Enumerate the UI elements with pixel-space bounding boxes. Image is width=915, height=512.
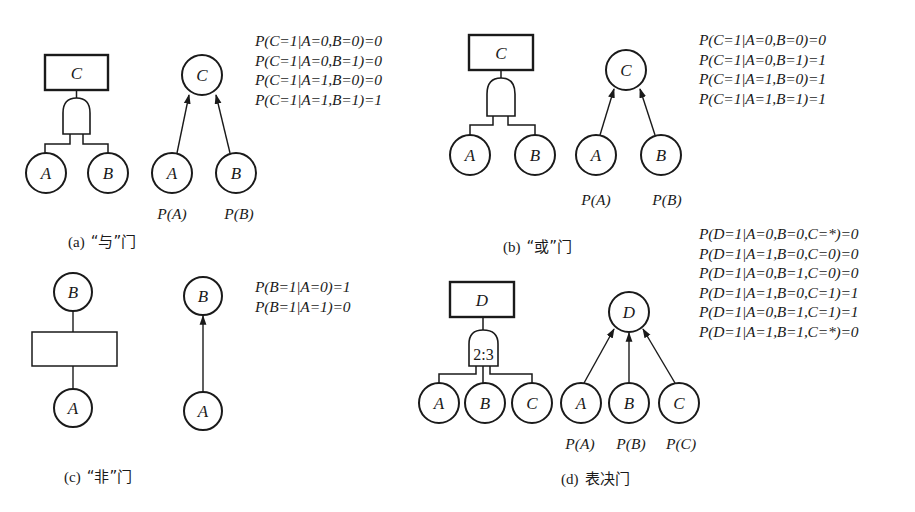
caption-label: “非”门 (87, 468, 133, 486)
node-label: B (530, 146, 541, 165)
equation: P(C=1|A=1,B=1)=1 (699, 89, 826, 109)
equation: P(D=1|A=1,B=1,C=*)=0 (699, 322, 858, 342)
equation: P(C=1|A=1,B=0)=1 (699, 69, 826, 89)
cpt-equations-b: P(C=1|A=0,B=0)=0 P(C=1|A=0,B=1)=1 P(C=1|… (699, 30, 826, 108)
caption-b: (b)“或”门 (503, 235, 572, 256)
caption-prefix: (a) (68, 234, 85, 250)
caption-label: “或”门 (527, 238, 573, 256)
node-label: A (40, 164, 52, 183)
caption-label: 表决门 (585, 470, 630, 488)
equation: P(B=1|A=1)=0 (255, 297, 350, 317)
arrow-icon (640, 89, 655, 135)
node-label: C (620, 61, 632, 80)
equation: P(B=1|A=0)=1 (255, 277, 350, 297)
caption-a: (a)“与”门 (68, 230, 136, 251)
arrow-icon (584, 329, 614, 383)
equation: P(D=1|A=0,B=1,C=1)=1 (699, 302, 858, 322)
equation: P(C=1|A=1,B=1)=1 (255, 90, 382, 110)
node-label: C (495, 44, 507, 63)
equation: P(C=1|A=0,B=0)=0 (255, 31, 382, 51)
arrow-icon (600, 89, 614, 135)
node-label: D (622, 303, 636, 322)
node-label: B (198, 287, 209, 306)
node-label: A (197, 402, 209, 421)
equation: P(C=1|A=1,B=0)=0 (255, 70, 382, 90)
node-label: B (624, 394, 635, 413)
equation: P(C=1|A=0,B=1)=1 (699, 50, 826, 70)
node-label: A (575, 394, 587, 413)
caption-label: “与”门 (91, 233, 137, 251)
node-label: A (433, 394, 445, 413)
node-label: B (103, 164, 114, 183)
equation: P(D=1|A=1,B=0,C=0)=0 (699, 244, 858, 264)
node-label: B (68, 283, 79, 302)
prior-label: P(B) (224, 205, 253, 223)
node-label: C (526, 394, 538, 413)
equation: P(D=1|A=1,B=0,C=1)=1 (699, 283, 858, 303)
node-label: B (231, 164, 242, 183)
equation: P(D=1|A=0,B=0,C=*)=0 (699, 224, 858, 244)
or-gate-icon (487, 78, 515, 116)
equation: P(D=1|A=0,B=1,C=0)=0 (699, 263, 858, 283)
caption-prefix: (c) (64, 469, 81, 485)
cpt-equations-c: P(B=1|A=0)=1 P(B=1|A=1)=0 (255, 277, 350, 316)
node-label: B (656, 146, 667, 165)
node-label: B (480, 394, 491, 413)
caption-prefix: (b) (503, 239, 521, 255)
cpt-equations-a: P(C=1|A=0,B=0)=0 P(C=1|A=0,B=1)=0 P(C=1|… (255, 31, 382, 109)
node-label: A (166, 164, 178, 183)
prior-label: P(B) (616, 435, 645, 453)
gate-label: 2:3 (473, 346, 493, 363)
equation: P(C=1|A=0,B=0)=0 (699, 30, 826, 50)
node-label: A (464, 146, 476, 165)
equation: P(C=1|A=0,B=1)=0 (255, 51, 382, 71)
cpt-equations-d: P(D=1|A=0,B=0,C=*)=0 P(D=1|A=1,B=0,C=0)=… (699, 224, 858, 342)
node-label: A (590, 146, 602, 165)
node-label: D (475, 291, 489, 310)
prior-label: P(A) (581, 191, 610, 209)
prior-label: P(C) (666, 435, 696, 453)
caption-c: (c)“非”门 (64, 465, 132, 486)
prior-label: P(A) (157, 205, 186, 223)
prior-label: P(A) (565, 435, 594, 453)
not-gate-box (32, 332, 117, 366)
prior-label: P(B) (652, 191, 681, 209)
caption-d: (d)表决门 (561, 467, 630, 488)
arrow-icon (177, 95, 189, 153)
node-label: C (196, 66, 208, 85)
and-gate-icon (63, 98, 90, 134)
node-label: C (673, 394, 685, 413)
node-label: A (67, 399, 79, 418)
node-label: C (71, 64, 83, 83)
arrow-icon (643, 329, 675, 383)
caption-prefix: (d) (561, 471, 579, 487)
arrow-icon (216, 95, 230, 153)
